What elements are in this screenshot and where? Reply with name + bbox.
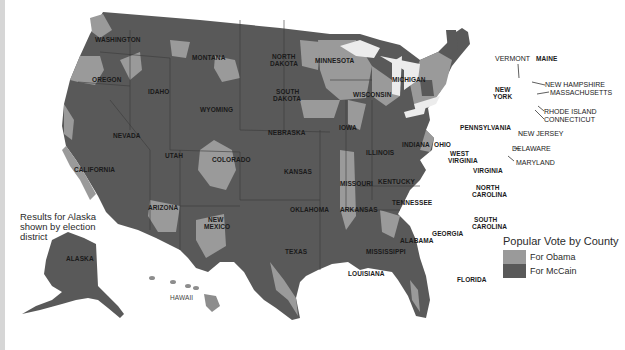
- label-west-virginia-1: WEST: [450, 150, 469, 157]
- legend-label-mccain: For McCain: [530, 266, 577, 276]
- label-south-carolina-1: SOUTH: [474, 216, 497, 223]
- label-new-hampshire: NEW HAMPSHIRE: [545, 81, 605, 88]
- label-illinois: ILLINOIS: [366, 149, 395, 156]
- label-north-dakota-2: DAKOTA: [270, 60, 298, 67]
- label-maryland: MARYLAND: [516, 159, 555, 166]
- legend-label-obama: For Obama: [530, 252, 576, 262]
- label-north-carolina-1: NORTH: [476, 184, 500, 191]
- legend-title: Popular Vote by County: [503, 235, 619, 247]
- label-north-dakota-1: NORTH: [272, 53, 296, 60]
- label-wyoming: WYOMING: [200, 106, 233, 113]
- alaska-shape: [22, 232, 124, 318]
- label-mississippi: MISSISSIPPI: [366, 248, 406, 255]
- label-kentucky: KENTUCKY: [378, 178, 415, 185]
- label-south-carolina-2: CAROLINA: [472, 223, 507, 230]
- label-rhode-island: RHODE ISLAND: [544, 108, 597, 115]
- label-delaware: DELAWARE: [512, 145, 551, 152]
- legend: Popular Vote by County For Obama For McC…: [503, 235, 619, 278]
- label-oklahoma: OKLAHOMA: [290, 206, 329, 213]
- label-vermont: VERMONT: [495, 55, 531, 62]
- label-new-york-1: NEW: [495, 86, 511, 93]
- label-california: CALIFORNIA: [74, 166, 115, 173]
- label-ohio: OHIO: [434, 141, 451, 148]
- us-county-map: WASHINGTON OREGON IDAHO MONTANA WYOMING …: [0, 0, 625, 350]
- label-nevada: NEVADA: [113, 132, 141, 139]
- label-new-mexico-1: NEW: [208, 216, 224, 223]
- label-idaho: IDAHO: [148, 88, 169, 95]
- contiguous-us-shape: [62, 12, 470, 320]
- label-south-dakota-2: DAKOTA: [273, 95, 301, 102]
- label-washington: WASHINGTON: [95, 36, 141, 43]
- label-oregon: OREGON: [92, 76, 122, 83]
- label-georgia: GEORGIA: [432, 230, 464, 237]
- label-missouri: MISSOURI: [340, 180, 373, 187]
- label-texas: TEXAS: [285, 248, 308, 255]
- label-michigan: MICHIGAN: [392, 76, 426, 83]
- label-alabama: ALABAMA: [400, 237, 434, 244]
- label-massachusetts: MASSACHUSETTS: [550, 89, 613, 96]
- label-utah: UTAH: [165, 152, 183, 159]
- label-nebraska: NEBRASKA: [268, 129, 306, 136]
- label-colorado: COLORADO: [212, 156, 251, 163]
- mccain-swatch: [503, 264, 526, 278]
- label-north-carolina-2: CAROLINA: [472, 191, 507, 198]
- label-tennessee: TENNESSEE: [392, 199, 433, 206]
- label-alaska: ALASKA: [66, 255, 94, 262]
- label-arkansas: ARKANSAS: [340, 206, 378, 213]
- label-connecticut: CONNECTICUT: [544, 116, 596, 123]
- label-indiana: INDIANA: [402, 141, 430, 148]
- label-iowa: IOWA: [339, 124, 357, 131]
- label-south-dakota-1: SOUTH: [276, 88, 299, 95]
- label-montana: MONTANA: [192, 54, 226, 61]
- label-minnesota: MINNESOTA: [315, 57, 355, 64]
- alaska-note: Results for Alaska shown by election dis…: [20, 212, 110, 242]
- label-pennsylvania: PENNSYLVANIA: [460, 124, 511, 131]
- label-louisiana: LOUISIANA: [348, 270, 385, 277]
- label-west-virginia-2: VIRGINIA: [448, 157, 478, 164]
- label-virginia: VIRGINIA: [473, 167, 503, 174]
- label-arizona: ARIZONA: [148, 204, 179, 211]
- label-new-jersey: NEW JERSEY: [518, 130, 564, 137]
- obama-swatch: [503, 250, 526, 264]
- label-wisconsin: WISCONSIN: [353, 91, 392, 98]
- legend-item-mccain: For McCain: [503, 264, 619, 278]
- label-florida: FLORIDA: [457, 276, 487, 283]
- label-new-york-2: YORK: [493, 93, 512, 100]
- label-new-mexico-2: MEXICO: [204, 223, 230, 230]
- label-kansas: KANSAS: [284, 168, 313, 175]
- label-maine: MAINE: [536, 55, 558, 62]
- legend-item-obama: For Obama: [503, 250, 619, 264]
- label-hawaii: HAWAII: [170, 294, 193, 301]
